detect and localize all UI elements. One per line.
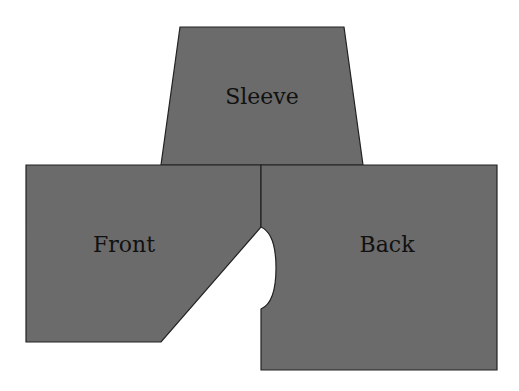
back-piece: Back — [261, 165, 497, 370]
back-label: Back — [360, 232, 416, 257]
front-label: Front — [93, 232, 155, 257]
sleeve-label: Sleeve — [225, 84, 299, 109]
pattern-diagram: Sleeve Front Back — [0, 0, 519, 391]
front-piece: Front — [26, 165, 261, 342]
sleeve-piece: Sleeve — [161, 27, 363, 165]
